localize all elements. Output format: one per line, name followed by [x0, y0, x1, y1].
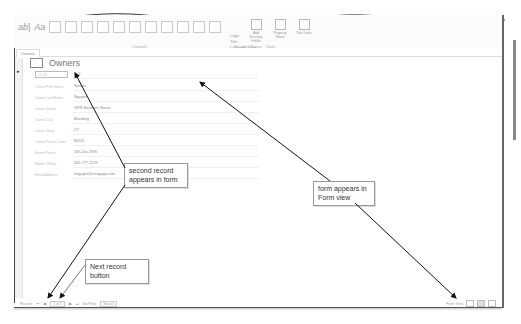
annotation-arrows: [0, 0, 521, 324]
